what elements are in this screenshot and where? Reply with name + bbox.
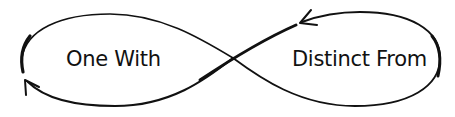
crossing-rising-stroke: [200, 25, 296, 80]
label-one-with: One With: [66, 49, 161, 70]
infinity-diagram: One With Distinct From: [0, 0, 455, 117]
label-distinct-from: Distinct From: [292, 49, 427, 70]
